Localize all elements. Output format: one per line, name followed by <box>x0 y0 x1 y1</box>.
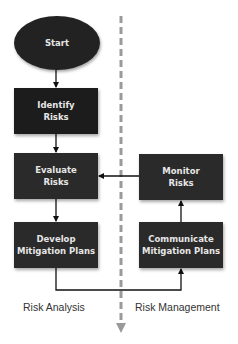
start-label: Start <box>45 37 69 49</box>
communicate-label-line1: Communicate <box>148 233 213 245</box>
monitor-label-line1: Monitor <box>162 165 199 177</box>
evaluate-label-line1: Evaluate <box>35 164 77 176</box>
monitor-risks-node: Monitor Risks <box>139 154 223 200</box>
lane-label-risk-management: Risk Management <box>135 301 220 313</box>
communicate-mitigation-plans-node: Communicate Mitigation Plans <box>139 222 223 268</box>
edge-develop-communicate <box>56 268 181 290</box>
evaluate-label-line2: Risks <box>43 176 68 188</box>
lane-label-risk-analysis: Risk Analysis <box>23 301 85 313</box>
start-node: Start <box>14 16 100 70</box>
identify-label-line2: Risks <box>43 111 68 123</box>
develop-mitigation-plans-node: Develop Mitigation Plans <box>14 222 98 268</box>
identify-risks-node: Identify Risks <box>14 88 98 134</box>
identify-label-line1: Identify <box>37 99 74 111</box>
develop-label-line1: Develop <box>37 233 76 245</box>
risk-flowchart: Start Identify Risks Evaluate Risks Deve… <box>0 0 238 344</box>
monitor-label-line2: Risks <box>168 177 193 189</box>
evaluate-risks-node: Evaluate Risks <box>14 153 98 199</box>
communicate-label-line2: Mitigation Plans <box>142 245 220 257</box>
develop-label-line2: Mitigation Plans <box>17 245 95 257</box>
